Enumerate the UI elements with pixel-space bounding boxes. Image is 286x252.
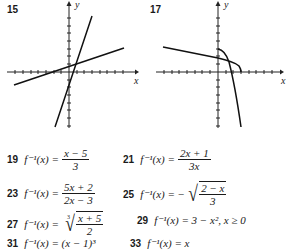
- answer-27: 27 f⁻¹(x) = 3√x + 52: [7, 211, 103, 237]
- svg-text:y: y: [223, 0, 229, 10]
- svg-text:x: x: [280, 75, 286, 86]
- answer-21: 21 f⁻¹(x) = 2x + 13x: [123, 147, 211, 172]
- answer-31: 31 f⁻¹(x) = (x − 1)³: [7, 237, 96, 250]
- cube-root: 3√x + 52: [61, 211, 103, 237]
- graph-15: 15 x y: [0, 0, 143, 130]
- square-root: √2 − x3: [187, 181, 226, 207]
- svg-text:y: y: [74, 0, 80, 10]
- graph-17: 17 x y: [143, 0, 286, 130]
- graph-15-plot: x y: [0, 0, 143, 130]
- answer-29: 29 f⁻¹(x) = 3 − x², x ≥ 0: [137, 214, 246, 227]
- svg-text:x: x: [133, 75, 139, 86]
- answer-25: 25 f⁻¹(x) = − √2 − x3: [123, 181, 226, 207]
- answer-23: 23 f⁻¹(x) = 5x + 22x − 3: [7, 181, 95, 206]
- answer-19: 19 f⁻¹(x) = x − 53: [7, 147, 89, 172]
- answer-33: 33 f⁻¹(x) = x: [130, 237, 190, 250]
- graph-17-plot: x y: [143, 0, 286, 130]
